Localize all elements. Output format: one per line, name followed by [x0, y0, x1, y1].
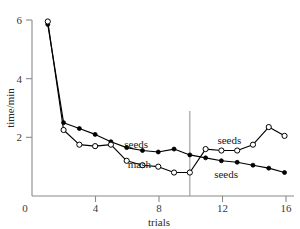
data-point-filled-circles-13	[235, 160, 239, 164]
data-point-open-circles-9	[171, 170, 176, 175]
data-point-filled-circles-11	[204, 156, 208, 160]
series-markers-group	[45, 19, 287, 175]
data-point-open-circles-8	[156, 164, 161, 169]
data-point-filled-circles-8	[156, 150, 160, 154]
series-annotation-seeds-0: seeds	[124, 138, 148, 150]
x-tick-label-12: 12	[217, 202, 228, 214]
series-lines-group	[48, 21, 285, 172]
y-tick-label-2: 2	[17, 131, 23, 143]
y-tick-labels: 6 4 2 0	[17, 14, 29, 214]
x-tick-labels: 4 8 12 16	[93, 202, 292, 214]
data-point-filled-circles-14	[251, 163, 255, 167]
chart-container: 6 4 2 0 4 8 12 16 trials time/min seedsm…	[0, 0, 300, 229]
data-point-filled-circles-10	[188, 153, 192, 157]
data-point-open-circles-14	[250, 142, 255, 147]
data-point-filled-circles-12	[219, 159, 223, 163]
data-point-open-circles-12	[219, 148, 224, 153]
data-point-open-circles-2	[61, 127, 66, 132]
series-annotation-seeds-3: seeds	[214, 168, 238, 180]
data-point-open-circles-4	[93, 144, 98, 149]
data-point-open-circles-10	[187, 170, 192, 175]
series-line-filled-circles	[48, 24, 285, 172]
data-point-open-circles-13	[235, 148, 240, 153]
x-tick-label-16: 16	[281, 202, 293, 214]
data-point-open-circles-11	[203, 146, 208, 151]
y-axis-title: time/min	[4, 88, 16, 128]
y-tick-label-6: 6	[17, 14, 23, 26]
data-point-filled-circles-16	[283, 171, 287, 175]
x-axis-title: trials	[148, 216, 170, 228]
data-point-filled-circles-2	[62, 121, 66, 125]
x-tick-marks	[96, 196, 287, 202]
y-tick-marks	[26, 20, 32, 137]
data-point-filled-circles-4	[93, 132, 97, 136]
y-tick-label-0: 0	[22, 202, 28, 214]
series-line-open-circles	[48, 21, 285, 172]
data-point-filled-circles-3	[77, 127, 81, 131]
data-point-filled-circles-15	[267, 166, 271, 170]
data-point-open-circles-16	[282, 133, 287, 138]
series-annotation-seeds-2: seeds	[217, 134, 241, 146]
data-point-open-circles-5	[108, 142, 113, 147]
x-tick-label-4: 4	[93, 202, 99, 214]
x-tick-label-8: 8	[156, 202, 162, 214]
series-annotation-mash-1: mash	[128, 158, 152, 170]
data-point-open-circles-15	[266, 124, 271, 129]
data-point-filled-circles-9	[172, 147, 176, 151]
axes-group	[32, 20, 294, 196]
y-tick-label-4: 4	[17, 73, 23, 85]
data-point-open-circles-3	[77, 142, 82, 147]
line-chart: 6 4 2 0 4 8 12 16 trials time/min seedsm…	[0, 0, 300, 229]
data-point-open-circles-1	[45, 19, 50, 24]
